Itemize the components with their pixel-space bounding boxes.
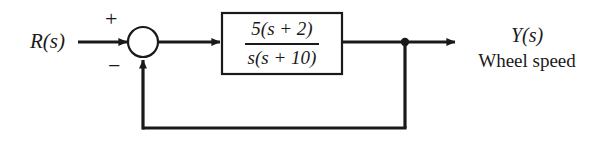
summing-junction-minus-sign: − [108,55,120,77]
output-description-label: Wheel speed [468,49,586,73]
summing-junction-plus-sign: + [105,8,117,30]
output-label-group: Y(s) Wheel speed [468,24,586,73]
transfer-function: 5(s + 2) s(s + 10) [222,13,342,74]
summing-junction [128,27,158,57]
transfer-function-numerator: 5(s + 2) [249,18,314,40]
output-symbol-label: Y(s) [468,24,586,47]
fraction-bar [245,43,319,45]
input-label: R(s) [30,31,65,52]
block-diagram: R(s) + − 5(s + 2) s(s + 10) Y(s) Wheel s… [0,0,594,154]
transfer-function-denominator: s(s + 10) [246,47,319,69]
